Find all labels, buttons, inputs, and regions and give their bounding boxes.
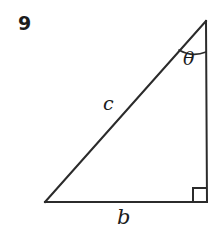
triangle-drawing — [0, 0, 221, 231]
angle-label-theta: θ — [183, 49, 194, 68]
hypotenuse-line — [45, 21, 206, 202]
vertical-leg-line — [206, 21, 207, 202]
problem-number: 9 — [18, 14, 31, 33]
base-label: b — [117, 207, 130, 228]
hypotenuse-label: c — [103, 94, 114, 113]
right-angle-square-icon — [193, 188, 206, 202]
right-triangle-figure: 9 c b θ — [0, 0, 221, 231]
